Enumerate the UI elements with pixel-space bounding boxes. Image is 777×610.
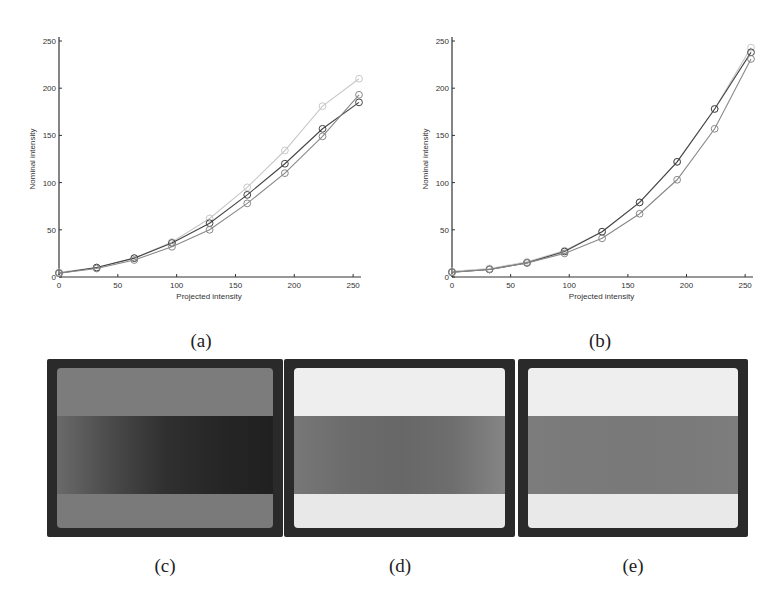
- x-tick-label: 50: [506, 281, 515, 290]
- photo-screen-c: [57, 368, 273, 528]
- chart-b: 050100150200250050100150200250Projected …: [390, 0, 777, 320]
- photo-screen-e: [528, 368, 738, 528]
- x-tick-label: 250: [738, 281, 752, 290]
- photo-screen-d: [294, 368, 505, 528]
- y-tick-label: 200: [436, 84, 450, 93]
- x-tick-label: 200: [288, 281, 302, 290]
- chart-b-svg: 050100150200250050100150200250Projected …: [390, 0, 777, 320]
- x-tick-label: 100: [563, 281, 577, 290]
- caption-a: (a): [171, 330, 231, 352]
- series-line-light: [59, 79, 359, 273]
- top-band: [57, 368, 273, 416]
- caption-d: (d): [370, 555, 430, 577]
- data-point-marker: [748, 56, 755, 63]
- top-band: [294, 368, 505, 416]
- y-tick-label: 250: [43, 37, 57, 46]
- chart-a: 050100150200250050100150200250Projected …: [0, 0, 390, 320]
- top-band: [528, 368, 738, 416]
- caption-c: (c): [135, 555, 195, 577]
- y-tick-label: 200: [43, 84, 57, 93]
- x-axis-label: Projected intensity: [176, 292, 241, 301]
- y-tick-label: 100: [43, 179, 57, 188]
- x-axis-label: Projected intensity: [569, 292, 634, 301]
- y-tick-label: 250: [436, 37, 450, 46]
- y-tick-label: 150: [43, 131, 57, 140]
- y-axis-label: Nominal intensity: [421, 129, 430, 190]
- x-tick-label: 150: [621, 281, 635, 290]
- middle-band: [57, 416, 273, 494]
- middle-band: [294, 416, 505, 494]
- y-tick-label: 50: [440, 226, 449, 235]
- caption-e: (e): [603, 555, 663, 577]
- x-tick-label: 0: [57, 281, 62, 290]
- series-line-dark: [59, 102, 359, 273]
- x-tick-label: 0: [450, 281, 455, 290]
- series-line-light: [452, 48, 751, 272]
- photo-d: [284, 359, 515, 537]
- photo-e: [518, 359, 748, 537]
- x-tick-label: 200: [680, 281, 694, 290]
- bottom-band: [294, 494, 505, 528]
- chart-a-svg: 050100150200250050100150200250Projected …: [0, 0, 390, 320]
- y-axis-label: Nominal intensity: [28, 129, 37, 190]
- y-tick-label: 100: [436, 179, 450, 188]
- x-tick-label: 50: [113, 281, 122, 290]
- series-line-medium: [59, 95, 359, 273]
- caption-b: (b): [570, 330, 630, 352]
- series-line-medium: [452, 59, 751, 272]
- x-tick-label: 250: [346, 281, 360, 290]
- middle-band: [528, 416, 738, 494]
- y-tick-label: 50: [47, 226, 56, 235]
- y-tick-label: 150: [436, 131, 450, 140]
- series-line-dark: [452, 52, 751, 272]
- photo-c: [47, 359, 283, 537]
- x-tick-label: 100: [170, 281, 184, 290]
- bottom-band: [57, 494, 273, 528]
- bottom-band: [528, 494, 738, 528]
- x-tick-label: 150: [229, 281, 243, 290]
